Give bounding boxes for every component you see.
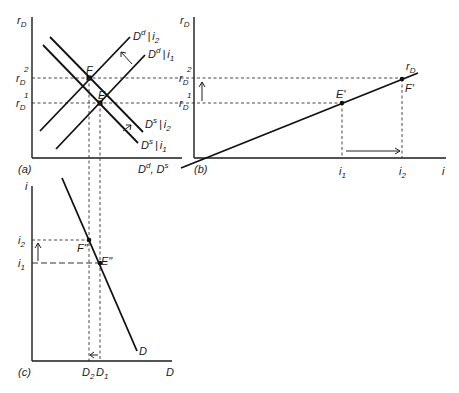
- panel-b-i2-label: i2: [399, 165, 406, 180]
- point-E-double-prime-label: E": [101, 255, 113, 267]
- point-E-label: E: [98, 89, 106, 101]
- deposit-rate-line: [181, 73, 418, 168]
- point-F-double-prime-label: F": [77, 242, 89, 254]
- panel-b-r2-sup: 2: [186, 65, 192, 74]
- panel-a-r2-label: rD: [16, 72, 26, 87]
- interest-up-arrow-icon: [35, 243, 41, 261]
- point-F-label: F: [86, 64, 94, 76]
- panel-b-r1-sup: 1: [187, 91, 191, 100]
- three-panel-diagram: rD rD 2 rD 1 Dd|i2 Dd|i1 Ds|i2 Ds|i1 F: [0, 0, 459, 393]
- demand-decrease-arrow-icon: [90, 352, 98, 358]
- panel-a-tag: (a): [18, 163, 32, 175]
- panel-c-x-label: D: [166, 366, 174, 378]
- deposit-supply-i1-curve: [43, 45, 138, 143]
- panel-a-x-label: Dd, Ds: [138, 161, 168, 175]
- loan-demand-line-label: D: [139, 345, 147, 357]
- rate-increase-arrow-icon: [199, 82, 205, 101]
- panel-b: rD rD 2 rD 1 rD E' F' i1 i2 i (b): [179, 14, 446, 180]
- dd-i1-label: Dd|i1: [148, 46, 174, 63]
- panel-a-r1-sup: 1: [24, 91, 28, 100]
- deposit-supply-i2-curve: [50, 37, 143, 132]
- dd-i2-label: Dd|i2: [133, 28, 160, 45]
- panel-b-y-label: rD: [180, 14, 190, 29]
- point-E-prime: [340, 101, 345, 106]
- panel-c-y-label: i: [25, 180, 28, 192]
- panel-b-r2-label: rD: [179, 72, 189, 87]
- interest-increase-arrow-icon: [346, 148, 400, 154]
- panel-c-i1-label: i1: [18, 257, 25, 272]
- panel-b-tag: (b): [194, 163, 208, 175]
- panel-a-r2-sup: 2: [23, 65, 29, 74]
- panel-a-y-label: rD: [17, 14, 27, 29]
- deposit-rate-line-label: rD: [406, 60, 416, 75]
- point-F-prime-label: F': [405, 82, 415, 94]
- panel-b-i1-label: i1: [339, 165, 346, 180]
- panel-c-d2-label: D2: [82, 366, 95, 381]
- demand-shift-arrow-icon: [121, 52, 132, 64]
- point-F-prime: [400, 77, 405, 82]
- panel-c-d1-label: D1: [96, 366, 108, 381]
- ds-i2-label: Ds|i2: [145, 116, 171, 133]
- ds-i1-label: Ds|i1: [141, 137, 167, 154]
- panel-c-tag: (c): [18, 366, 31, 378]
- panel-b-x-label: i: [442, 165, 445, 177]
- panel-c-i2-label: i2: [18, 234, 25, 249]
- point-E-prime-label: E': [336, 88, 346, 100]
- panel-c: i i2 i1 D F" E" D2 D1 D (c): [18, 178, 174, 381]
